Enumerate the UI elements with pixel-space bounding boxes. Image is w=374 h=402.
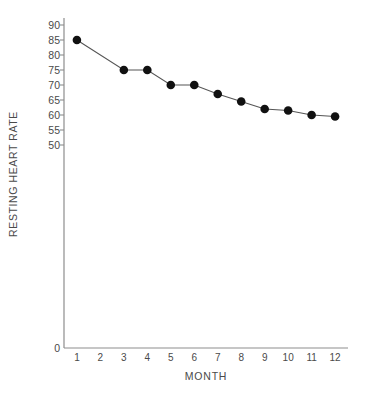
data-point (260, 105, 269, 114)
data-point (284, 106, 293, 115)
data-point (73, 36, 82, 45)
data-point (237, 97, 246, 106)
axes (60, 18, 348, 348)
line-chart-plot (0, 0, 374, 402)
data-point (213, 90, 222, 99)
data-point (331, 112, 340, 121)
data-point (120, 66, 129, 75)
data-point (190, 81, 199, 90)
chart-container: RESTING HEART RATE 9085807570656055500 1… (0, 0, 374, 402)
series-line (77, 40, 335, 117)
data-point (166, 81, 175, 90)
data-series (73, 36, 340, 121)
series-markers (73, 36, 340, 121)
data-point (307, 111, 316, 120)
data-point (143, 66, 152, 75)
